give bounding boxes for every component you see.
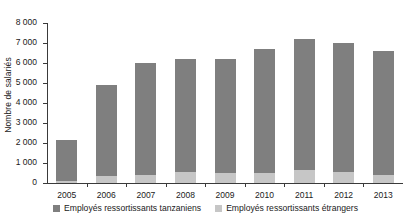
bar-chart-figure: Nombre de salariés 01 0002 0003 0004 000… <box>0 0 411 222</box>
legend-item[interactable]: Employés ressortissants étrangers <box>215 203 358 213</box>
bar-segment-national[interactable] <box>56 140 77 181</box>
y-tick-label: 6 000 <box>16 57 37 67</box>
x-tick <box>87 183 88 187</box>
bar-segment-foreign[interactable] <box>215 173 236 183</box>
bar-segment-foreign[interactable] <box>175 172 196 183</box>
plot-area: 01 0002 0003 0004 0005 0006 0007 0008 00… <box>47 18 403 183</box>
y-tick-label: 5 000 <box>16 77 37 87</box>
y-tick-label: 1 000 <box>16 157 37 167</box>
x-tick <box>166 183 167 187</box>
bar-segment-national[interactable] <box>254 49 275 173</box>
bar-segment-national[interactable] <box>373 51 394 175</box>
x-tick-label: 2010 <box>245 190 285 200</box>
bar-segment-foreign[interactable] <box>56 181 77 183</box>
x-tick-label: 2008 <box>166 190 206 200</box>
bar-segment-foreign[interactable] <box>254 173 275 183</box>
y-tick-label: 7 000 <box>16 37 37 47</box>
x-tick <box>205 183 206 187</box>
x-tick-label: 2011 <box>284 190 324 200</box>
legend-label: Employés ressortissants tanzaniens <box>64 203 201 213</box>
y-axis-title-label: Nombre de salariés <box>3 57 13 133</box>
y-tick: 6 000 <box>43 63 47 64</box>
bar-group[interactable] <box>215 18 236 183</box>
bar-segment-foreign[interactable] <box>294 170 315 183</box>
y-tick-label: 4 000 <box>16 97 37 107</box>
bar-segment-national[interactable] <box>96 85 117 176</box>
legend-label: Employés ressortissants étrangers <box>226 203 358 213</box>
y-tick-label: 8 000 <box>16 17 37 27</box>
bar-group[interactable] <box>56 18 77 183</box>
bar-segment-national[interactable] <box>175 59 196 172</box>
y-tick: 0 <box>43 183 47 184</box>
bar-group[interactable] <box>135 18 156 183</box>
bar-segment-national[interactable] <box>215 59 236 173</box>
y-tick-label: 0 <box>32 177 37 187</box>
legend-swatch-icon <box>53 205 60 212</box>
x-tick-label: 2006 <box>87 190 127 200</box>
bar-segment-foreign[interactable] <box>96 176 117 183</box>
bar-segment-foreign[interactable] <box>373 175 394 183</box>
bar-segment-foreign[interactable] <box>135 175 156 183</box>
legend-item[interactable]: Employés ressortissants tanzaniens <box>53 203 201 213</box>
bar-group[interactable] <box>254 18 275 183</box>
y-axis-line <box>47 23 48 183</box>
bar-group[interactable] <box>294 18 315 183</box>
bar-segment-national[interactable] <box>135 63 156 175</box>
bar-group[interactable] <box>96 18 117 183</box>
y-tick: 4 000 <box>43 103 47 104</box>
y-tick: 3 000 <box>43 123 47 124</box>
y-tick-label: 3 000 <box>16 117 37 127</box>
y-tick: 2 000 <box>43 143 47 144</box>
bar-group[interactable] <box>333 18 354 183</box>
x-tick <box>245 183 246 187</box>
x-tick-label: 2009 <box>205 190 245 200</box>
x-axis-line <box>47 183 403 184</box>
y-tick-label: 2 000 <box>16 137 37 147</box>
y-tick: 5 000 <box>43 83 47 84</box>
x-tick <box>284 183 285 187</box>
x-tick <box>363 183 364 187</box>
x-tick-label: 2007 <box>126 190 166 200</box>
bar-segment-foreign[interactable] <box>333 172 354 183</box>
y-tick: 1 000 <box>43 163 47 164</box>
y-tick: 7 000 <box>43 43 47 44</box>
y-tick: 8 000 <box>43 23 47 24</box>
chart-legend: Employés ressortissants tanzaniensEmploy… <box>0 203 411 213</box>
x-tick-label: 2012 <box>324 190 364 200</box>
x-tick <box>126 183 127 187</box>
x-tick-label: 2005 <box>47 190 87 200</box>
bar-segment-national[interactable] <box>333 43 354 172</box>
x-tick-label: 2013 <box>363 190 403 200</box>
x-tick <box>324 183 325 187</box>
bar-group[interactable] <box>175 18 196 183</box>
legend-swatch-icon <box>215 205 222 212</box>
y-axis-title: Nombre de salariés <box>0 0 16 190</box>
bar-segment-national[interactable] <box>294 39 315 170</box>
bar-group[interactable] <box>373 18 394 183</box>
